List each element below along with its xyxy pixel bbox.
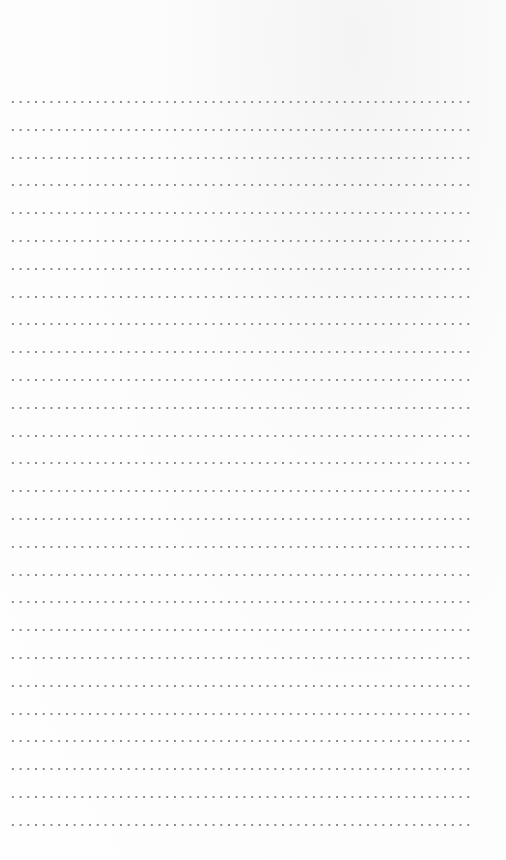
dotted-writing-line bbox=[9, 546, 473, 548]
dotted-writing-line bbox=[9, 351, 473, 353]
dotted-writing-line bbox=[9, 685, 473, 687]
dotted-writing-line bbox=[9, 490, 473, 492]
dotted-writing-line bbox=[9, 713, 473, 715]
dotted-writing-line bbox=[9, 574, 473, 576]
dotted-writing-line bbox=[9, 212, 473, 214]
dotted-writing-line bbox=[9, 657, 473, 659]
dotted-writing-line bbox=[9, 129, 473, 131]
dotted-writing-line bbox=[9, 629, 473, 631]
dotted-writing-line bbox=[9, 435, 473, 437]
dotted-writing-line bbox=[9, 184, 473, 186]
dotted-writing-line bbox=[9, 768, 473, 770]
dotted-writing-line bbox=[9, 379, 473, 381]
dotted-writing-line bbox=[9, 518, 473, 520]
dotted-writing-line bbox=[9, 824, 473, 826]
dotted-writing-line bbox=[9, 462, 473, 464]
dotted-writing-line bbox=[9, 268, 473, 270]
dotted-writing-line bbox=[9, 323, 473, 325]
dotted-writing-line bbox=[9, 240, 473, 242]
dotted-writing-line bbox=[9, 407, 473, 409]
dotted-writing-line bbox=[9, 740, 473, 742]
dotted-writing-line bbox=[9, 157, 473, 159]
dotted-writing-line bbox=[9, 601, 473, 603]
dotted-writing-line bbox=[9, 796, 473, 798]
dotted-writing-line bbox=[9, 101, 473, 103]
dotted-writing-line bbox=[9, 296, 473, 298]
lined-paper-sheet bbox=[0, 0, 506, 860]
